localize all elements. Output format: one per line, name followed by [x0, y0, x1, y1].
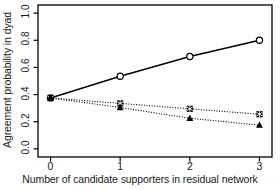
x-axis-title-text: Number of candidate supporters in residu… [22, 173, 257, 185]
series-line [51, 40, 260, 98]
data-series-layer [47, 37, 263, 128]
axis-ticks [34, 13, 260, 161]
chart-figure: Agreement probability in dyad 0.00.20.40… [0, 0, 280, 190]
plot-area [0, 0, 280, 190]
series-line [51, 98, 260, 125]
axes-frame [38, 5, 272, 157]
series-line [51, 98, 260, 114]
marker-open-circle [187, 53, 193, 59]
marker-open-circle [117, 73, 123, 79]
marker-open-circle [256, 37, 262, 43]
x-axis-title: Number of candidate supporters in residu… [0, 173, 280, 185]
